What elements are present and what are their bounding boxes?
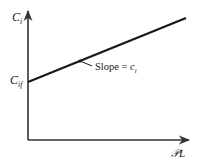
slope-annotation-leader [78,59,92,66]
intercept-label: Cif [10,73,24,89]
y-axis-label: Ci [12,10,22,26]
x-axis-label: 𝒫L [171,147,185,159]
slope-annotation-text: Slope = ci [95,61,137,75]
data-line [28,18,186,82]
diagram-canvas: Ci Cif Slope = ci 𝒫L [0,0,201,163]
